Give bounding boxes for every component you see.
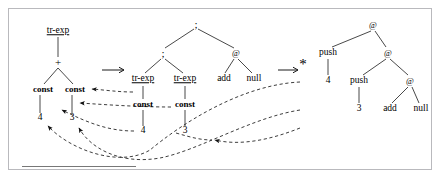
mapping-arrows	[48, 82, 300, 160]
figure-canvas: tr-exp + const const 4 3 ⟶ ; ; @ tr-exp …	[0, 0, 448, 186]
node-middle-tr-exp-1: tr-exp	[132, 74, 155, 84]
kleene-star-icon: *	[299, 57, 307, 72]
node-target-at-3: @	[406, 77, 414, 86]
node-target-number-4: 4	[326, 76, 331, 86]
node-source-const-right: const	[65, 85, 85, 94]
node-target-at-2: @	[384, 49, 392, 58]
node-middle-null: null	[247, 74, 262, 84]
node-source-tr-exp: tr-exp	[47, 26, 70, 36]
node-target-push-2: push	[350, 76, 368, 86]
map-arrow-push3-to-num3	[79, 110, 300, 160]
map-arrow-const-to-const	[92, 89, 133, 92]
node-middle-tr-exp-2: tr-exp	[174, 74, 197, 84]
node-middle-semicolon: ;	[161, 48, 164, 59]
map-arrow-join-segment	[176, 133, 212, 140]
node-target-number-3: 3	[357, 104, 362, 114]
node-source-number-3: 3	[70, 113, 75, 123]
node-middle-at: @	[232, 49, 240, 58]
bytecode-tree-edges	[328, 31, 419, 103]
node-middle-number-3: 3	[183, 126, 188, 136]
node-source-plus: +	[55, 57, 61, 68]
node-target-null: null	[414, 104, 429, 114]
node-middle-add: add	[217, 74, 231, 84]
node-middle-number-4: 4	[141, 126, 146, 136]
intermediate-tree-edges	[143, 29, 252, 126]
node-source-const-left: const	[33, 85, 53, 94]
node-target-push-1: push	[319, 48, 337, 58]
rewrite-arrow-shafts	[102, 67, 298, 73]
map-arrow-push4-to-num4	[48, 82, 300, 157]
node-source-number-4: 4	[38, 113, 43, 123]
node-target-add: add	[383, 104, 397, 114]
source-tree-edges	[40, 37, 73, 113]
map-arrow-const2-to-plus	[80, 103, 171, 107]
footnote-separator-rule	[22, 166, 136, 167]
map-arrow-tail-right	[215, 128, 300, 142]
node-target-at-1: @	[369, 21, 377, 30]
node-middle-semicolon-root: ;	[194, 19, 197, 30]
node-middle-const-2: const	[175, 100, 195, 109]
node-middle-const-1: const	[133, 100, 153, 109]
